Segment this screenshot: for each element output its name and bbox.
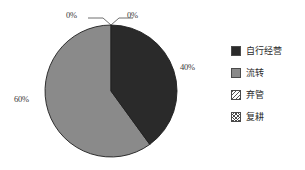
pie-chart-figure: 0% 0% 40% 60% 自行经营 流转 弃管 复耕 bbox=[0, 0, 305, 170]
data-label-fugeng-percent: 0% bbox=[127, 10, 138, 20]
legend-label-zixingjingying: 自行经营 bbox=[246, 47, 282, 56]
data-label-qiguan-percent: 0% bbox=[66, 10, 77, 20]
legend-label-fugeng: 复耕 bbox=[246, 113, 264, 122]
data-label-zixingjingying-percent: 40% bbox=[180, 62, 195, 72]
data-label-liuzhuan-percent: 60% bbox=[14, 94, 29, 104]
solid-dark-swatch-icon bbox=[231, 46, 241, 56]
solid-gray-swatch-icon bbox=[231, 68, 241, 78]
legend-item-fugeng[interactable]: 复耕 bbox=[231, 106, 303, 128]
chart-legend: 自行经营 流转 弃管 复耕 bbox=[231, 40, 303, 128]
diagonal-hatch-swatch-icon bbox=[231, 90, 241, 100]
legend-label-liuzhuan: 流转 bbox=[246, 69, 264, 78]
leader-line-zero-left bbox=[88, 18, 111, 25]
legend-item-zixingjingying[interactable]: 自行经营 bbox=[231, 40, 303, 62]
legend-item-liuzhuan[interactable]: 流转 bbox=[231, 62, 303, 84]
legend-label-qiguan: 弃管 bbox=[246, 91, 264, 100]
crosshatch-swatch-icon bbox=[231, 112, 241, 122]
legend-item-qiguan[interactable]: 弃管 bbox=[231, 84, 303, 106]
